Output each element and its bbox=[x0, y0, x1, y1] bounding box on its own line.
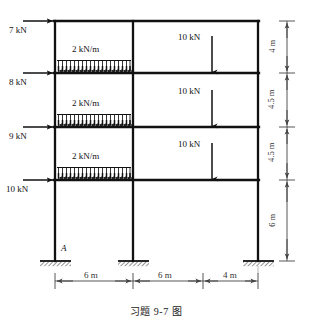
vertical-dimension-line bbox=[279, 21, 295, 261]
support-c bbox=[243, 261, 274, 266]
frame-diagram: 7 kN 8 kN 9 kN 10 kN 2 kN/m 2 kN/m 2 kN/… bbox=[0, 0, 312, 324]
support-label-a: A bbox=[61, 244, 67, 253]
horizontal-dim-label-1: 6 m bbox=[84, 270, 98, 280]
vertical-dim-label-1: 4 m bbox=[268, 40, 277, 53]
point-load-label-level1: 10 kN bbox=[178, 140, 200, 149]
distributed-loads bbox=[57, 61, 131, 180]
horizontal-dim-label-2: 6 m bbox=[158, 270, 172, 280]
lateral-load-label-3: 9 kN bbox=[9, 132, 27, 141]
vertical-dim-label-2: 4.5 m bbox=[267, 90, 276, 109]
point-load-label-level3: 10 kN bbox=[178, 33, 200, 42]
point-load-label-level2: 10 kN bbox=[178, 87, 200, 96]
lateral-load-label-2: 8 kN bbox=[9, 78, 27, 87]
horizontal-dim-label-3: 4 m bbox=[223, 270, 237, 280]
udl-label-level1: 2 kN/m bbox=[72, 152, 99, 161]
udl-level3 bbox=[57, 61, 131, 73]
udl-level2 bbox=[57, 115, 131, 127]
vertical-dim-label-3: 4.5 m bbox=[267, 143, 276, 162]
figure-caption: 习题 9-7 图 bbox=[0, 303, 312, 318]
udl-label-level3: 2 kN/m bbox=[72, 45, 99, 54]
lateral-load-label-4: 10 kN bbox=[6, 185, 28, 194]
udl-label-level2: 2 kN/m bbox=[72, 99, 99, 108]
frame-members bbox=[54, 21, 259, 261]
supports bbox=[40, 261, 274, 266]
frame-diagram-svg bbox=[0, 0, 312, 324]
support-a bbox=[40, 261, 71, 266]
lateral-load-arrows bbox=[23, 21, 53, 180]
vertical-dim-label-4: 6 m bbox=[268, 214, 277, 227]
udl-level1 bbox=[57, 168, 131, 180]
lateral-load-label-1: 7 kN bbox=[9, 26, 27, 35]
support-b bbox=[118, 261, 149, 266]
